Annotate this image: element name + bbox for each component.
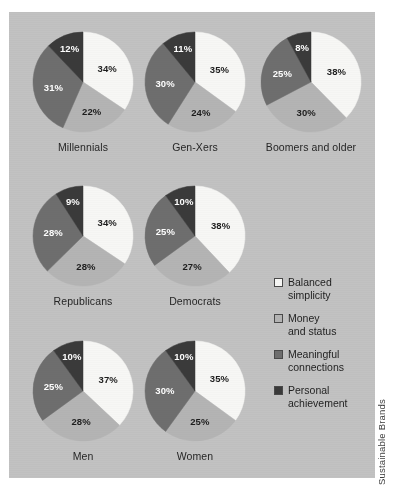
pie-cell-millennials: 34%22%31%12% Millennials <box>25 30 141 153</box>
legend-label-line1: Balanced <box>288 276 332 288</box>
legend-swatch-money-and-status <box>274 314 283 323</box>
legend-label-money-and-status: Money and status <box>288 312 336 337</box>
pie-caption-boomers-and-older: Boomers and older <box>245 141 377 153</box>
pie-cell-gen-xers: 35%24%30%11% Gen-Xers <box>137 30 253 153</box>
legend-label-balanced-simplicity: Balanced simplicity <box>288 276 332 301</box>
pie-value-label: 30% <box>155 385 175 396</box>
pie-value-label: 27% <box>182 261 202 272</box>
pie-cell-democrats: 38%27%25%10% Democrats <box>137 184 253 307</box>
legend-label-line2: achievement <box>288 397 348 409</box>
pie-value-label: 34% <box>98 63 118 74</box>
legend-item-meaningful-connections[interactable]: Meaningful connections <box>274 348 370 373</box>
chart-legend: Balanced simplicity Money and status Mea… <box>274 276 370 420</box>
pie-caption-millennials: Millennials <box>25 141 141 153</box>
pie-chart-republicans[interactable]: 34%28%28%9% <box>31 184 135 288</box>
legend-swatch-balanced-simplicity <box>274 278 283 287</box>
legend-label-line1: Personal <box>288 384 329 396</box>
pie-caption-democrats: Democrats <box>137 295 253 307</box>
legend-swatch-personal-achievement <box>274 386 283 395</box>
pie-cell-women: 35%25%30%10% Women <box>137 339 253 462</box>
pie-cell-men: 37%28%25%10% Men <box>25 339 141 462</box>
pie-chart-gen-xers[interactable]: 35%24%30%11% <box>143 30 247 134</box>
pie-svg-gen-xers: 35%24%30%11% <box>143 30 247 134</box>
pie-svg-women: 35%25%30%10% <box>143 339 247 443</box>
pie-value-label: 22% <box>82 106 102 117</box>
pie-value-label: 37% <box>99 374 119 385</box>
pie-chart-men[interactable]: 37%28%25%10% <box>31 339 135 443</box>
pie-value-label: 9% <box>66 196 80 207</box>
pie-value-label: 35% <box>210 373 230 384</box>
pie-value-label: 10% <box>174 351 194 362</box>
pie-value-label: 38% <box>327 66 347 77</box>
pie-value-label: 28% <box>44 227 64 238</box>
legend-label-line1: Meaningful <box>288 348 339 360</box>
pie-chart-boomers-and-older[interactable]: 38%30%25%8% <box>259 30 363 134</box>
pie-svg-men: 37%28%25%10% <box>31 339 135 443</box>
pie-value-label: 25% <box>273 68 293 79</box>
pie-value-label: 25% <box>44 381 64 392</box>
pie-chart-millennials[interactable]: 34%22%31%12% <box>31 30 135 134</box>
legend-item-money-and-status[interactable]: Money and status <box>274 312 370 337</box>
pie-value-label: 8% <box>295 42 309 53</box>
pie-value-label: 12% <box>60 43 80 54</box>
pie-cell-republicans: 34%28%28%9% Republicans <box>25 184 141 307</box>
pie-caption-women: Women <box>137 450 253 462</box>
pie-svg-democrats: 38%27%25%10% <box>143 184 247 288</box>
pie-value-label: 28% <box>71 416 91 427</box>
pie-value-label: 35% <box>210 64 230 75</box>
legend-item-personal-achievement[interactable]: Personal achievement <box>274 384 370 409</box>
pie-value-label: 34% <box>98 217 118 228</box>
pie-value-label: 31% <box>44 82 64 93</box>
legend-label-personal-achievement: Personal achievement <box>288 384 348 409</box>
pie-value-label: 38% <box>211 220 231 231</box>
pie-value-label: 25% <box>156 226 176 237</box>
pie-chart-democrats[interactable]: 38%27%25%10% <box>143 184 247 288</box>
source-credit-label: Sustainable Brands <box>376 399 387 485</box>
pie-value-label: 30% <box>155 78 175 89</box>
pie-value-label: 24% <box>191 107 211 118</box>
source-credit: Sustainable Brands <box>376 305 398 485</box>
legend-label-line1: Money <box>288 312 320 324</box>
pie-value-label: 30% <box>297 107 317 118</box>
pie-svg-boomers-and-older: 38%30%25%8% <box>259 30 363 134</box>
legend-item-balanced-simplicity[interactable]: Balanced simplicity <box>274 276 370 301</box>
pie-value-label: 25% <box>190 416 210 427</box>
legend-label-line2: and status <box>288 325 336 337</box>
pie-value-label: 10% <box>62 351 82 362</box>
legend-label-line2: connections <box>288 361 344 373</box>
pie-caption-republicans: Republicans <box>25 295 141 307</box>
pie-svg-republicans: 34%28%28%9% <box>31 184 135 288</box>
pie-caption-gen-xers: Gen-Xers <box>137 141 253 153</box>
pie-value-label: 10% <box>174 196 194 207</box>
pie-svg-millennials: 34%22%31%12% <box>31 30 135 134</box>
pie-caption-men: Men <box>25 450 141 462</box>
pie-cell-boomers-and-older: 38%30%25%8% Boomers and older <box>245 30 377 153</box>
legend-label-meaningful-connections: Meaningful connections <box>288 348 344 373</box>
pie-value-label: 11% <box>173 43 192 54</box>
legend-swatch-meaningful-connections <box>274 350 283 359</box>
pie-chart-women[interactable]: 35%25%30%10% <box>143 339 247 443</box>
pie-value-label: 28% <box>76 261 96 272</box>
figure-panel: 34%22%31%12% Millennials 35%24%30%11% Ge… <box>9 12 375 478</box>
legend-label-line2: simplicity <box>288 289 331 301</box>
